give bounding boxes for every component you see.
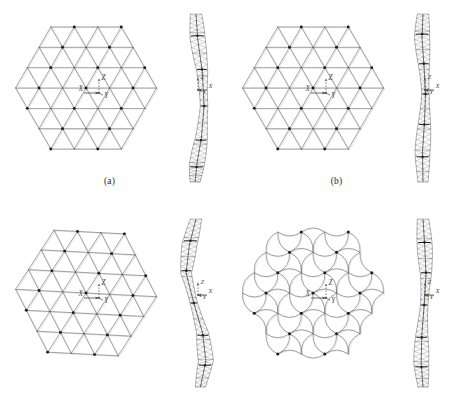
panel-d-graphic: ZXY ZXY <box>227 205 454 409</box>
panel-a-graphic: ZXY ZXY <box>0 0 227 205</box>
axis-label-x: X <box>208 287 214 294</box>
axis-label-x: X <box>208 82 214 89</box>
panel-c: ZXY ZXY (c) <box>0 205 227 409</box>
axis-label-x: X <box>78 85 84 93</box>
panel-a-plan-view: ZXY <box>16 26 158 151</box>
axis-label-y: Y <box>202 88 207 95</box>
axis-label-x: X <box>435 287 441 294</box>
axis-label-y: Y <box>429 88 434 95</box>
axis-label-z: Z <box>201 73 205 80</box>
axis-label-x: X <box>435 82 441 89</box>
panel-b-caption: (b) <box>223 176 450 186</box>
panel-a-caption: (a) <box>0 176 223 186</box>
panel-a-side-view: ZXY <box>189 14 213 182</box>
axis-label-x: X <box>78 290 84 298</box>
panel-b-plan-view: ZXY <box>243 26 385 151</box>
panel-c-graphic: ZXY ZXY <box>0 205 227 409</box>
panel-d-side-view: ZXY <box>414 219 441 387</box>
panel-c-side-view: ZXY <box>181 219 214 387</box>
axis-label-y: Y <box>202 293 207 300</box>
axis-label-z: Z <box>329 279 334 287</box>
panel-a: ZXY ZXY (a) <box>0 0 227 205</box>
figure-grid: ZXY ZXY (a) ZXY ZXY (b) ZXY ZXY (c) ZXY … <box>0 0 454 409</box>
panel-d-plan-view: ZXY <box>242 228 384 359</box>
panel-b: ZXY ZXY (b) <box>227 0 454 205</box>
panel-b-side-view: ZXY <box>415 14 441 182</box>
axis-label-y: Y <box>429 293 434 300</box>
panel-d: ZXY ZXY (d) <box>227 205 454 409</box>
axis-label-x: X <box>305 85 311 93</box>
axis-label-z: Z <box>201 278 205 285</box>
panel-c-plan-view: ZXY <box>16 230 158 357</box>
axis-label-y: Y <box>331 297 336 305</box>
axis-label-z: Z <box>428 278 432 285</box>
axis-label-z: Z <box>428 73 432 80</box>
panel-b-graphic: ZXY ZXY <box>227 0 454 205</box>
axis-label-x: X <box>305 290 311 298</box>
